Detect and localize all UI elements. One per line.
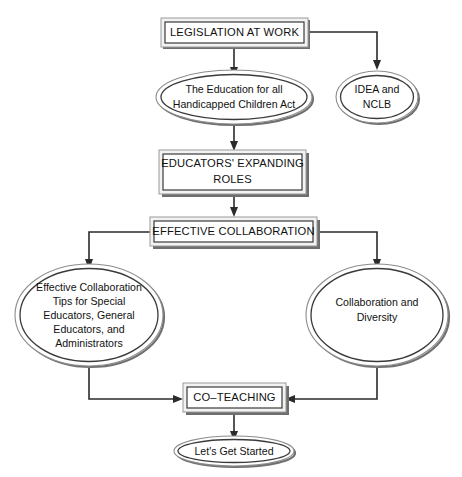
idea-nclb-line2: NCLB xyxy=(363,98,391,110)
arrowhead-icon xyxy=(373,60,381,70)
effective-collaboration-label: EFFECTIVE COLLABORATION xyxy=(152,225,314,237)
tips-line2: Tips for Special xyxy=(53,295,126,307)
education-act-line1: The Education for all xyxy=(185,83,282,95)
flowchart-diagram: LEGISLATION AT WORK The Education for al… xyxy=(0,0,462,477)
connector-educators-roles-to-effective-collaboration xyxy=(230,196,238,217)
node-legislation-at-work[interactable]: LEGISLATION AT WORK xyxy=(161,18,310,49)
node-lets-get-started[interactable]: Let's Get Started xyxy=(174,436,295,467)
tips-line4: Educators, and xyxy=(53,323,124,335)
node-education-for-all-handicapped-children-act[interactable]: The Education for all Handicapped Childr… xyxy=(156,70,313,125)
idea-nclb-line1: IDEA and xyxy=(355,83,400,95)
node-effective-collaboration[interactable]: EFFECTIVE COLLABORATION xyxy=(150,217,320,249)
connector-legislation-to-idea-nclb xyxy=(308,32,381,70)
educators-roles-line2: ROLES xyxy=(213,173,252,185)
education-act-line2: Handicapped Children Act xyxy=(173,98,296,110)
legislation-label: LEGISLATION AT WORK xyxy=(170,26,299,38)
node-co-teaching[interactable]: CO–TEACHING xyxy=(183,383,289,415)
node-collaboration-and-diversity[interactable]: Collaboration and Diversity xyxy=(306,264,449,367)
tips-line3: Educators, General xyxy=(43,309,134,321)
node-idea-and-nclb[interactable]: IDEA and NCLB xyxy=(336,71,419,124)
connector-tips-to-co-teaching xyxy=(89,368,183,403)
arrowhead-icon xyxy=(173,395,183,403)
connector-diversity-to-co-teaching xyxy=(285,368,377,403)
diversity-line1: Collaboration and xyxy=(335,296,418,308)
node-effective-collaboration-tips[interactable]: Effective Collaboration Tips for Special… xyxy=(15,264,164,367)
lets-get-started-label: Let's Get Started xyxy=(194,445,273,457)
tips-line5: Administrators xyxy=(55,337,123,349)
educators-roles-line1: EDUCATORS' EXPANDING xyxy=(161,157,304,169)
diversity-line2: Diversity xyxy=(357,311,398,323)
arrowhead-icon xyxy=(230,207,238,217)
connector-education-act-to-educators-roles xyxy=(230,125,238,151)
tips-line1: Effective Collaboration xyxy=(36,281,142,293)
co-teaching-label: CO–TEACHING xyxy=(193,391,275,403)
flowchart-canvas: LEGISLATION AT WORK The Education for al… xyxy=(0,0,462,477)
node-educators-expanding-roles[interactable]: EDUCATORS' EXPANDING ROLES xyxy=(159,150,309,197)
